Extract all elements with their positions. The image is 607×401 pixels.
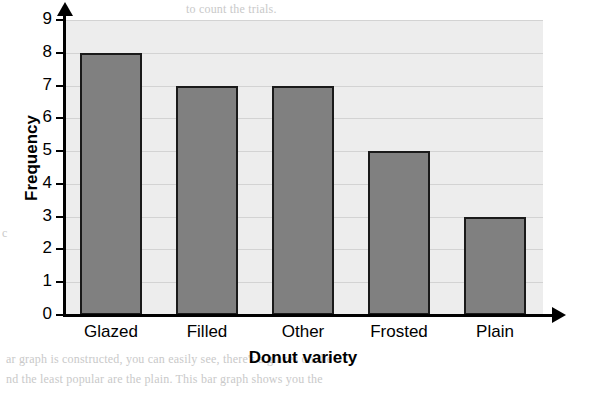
bar	[80, 53, 142, 315]
bar	[272, 86, 334, 315]
x-axis-tick-label: Other	[255, 322, 351, 342]
y-axis-tick-label: 8	[30, 42, 52, 62]
y-axis-line	[63, 12, 66, 317]
y-axis-tick-label: 0	[30, 304, 52, 324]
background-artifact-top: to count the trials.	[186, 2, 277, 17]
bar	[464, 217, 526, 315]
x-axis-title: Donut variety	[63, 348, 543, 368]
y-axis-tick	[56, 52, 64, 54]
x-axis-arrow-icon	[552, 307, 566, 323]
y-axis-tick	[56, 19, 64, 21]
x-axis-tick-label: Plain	[447, 322, 543, 342]
y-axis-title: Frequency	[22, 68, 42, 248]
plot-area	[63, 20, 543, 315]
x-axis-line	[63, 314, 554, 317]
y-axis-tick	[56, 314, 64, 316]
y-axis-arrow-icon	[57, 2, 73, 16]
bar-chart: to count the trials. c ar graph is const…	[0, 0, 607, 401]
gridline	[63, 20, 543, 21]
y-axis-tick	[56, 117, 64, 119]
y-axis-tick-label: 1	[30, 271, 52, 291]
x-axis-tick-label: Frosted	[351, 322, 447, 342]
x-axis-tick-label: Filled	[159, 322, 255, 342]
y-axis-tick	[56, 85, 64, 87]
y-axis-tick	[56, 216, 64, 218]
bar	[176, 86, 238, 315]
y-axis-tick-label: 9	[30, 9, 52, 29]
bar	[368, 151, 430, 315]
y-axis-tick	[56, 183, 64, 185]
background-artifact-bottom-2: nd the least popular are the plain. This…	[6, 372, 323, 387]
y-axis-tick	[56, 281, 64, 283]
y-axis-tick	[56, 150, 64, 152]
x-axis-tick-label: Glazed	[63, 322, 159, 342]
background-artifact-left: c	[2, 226, 8, 241]
y-axis-tick	[56, 248, 64, 250]
